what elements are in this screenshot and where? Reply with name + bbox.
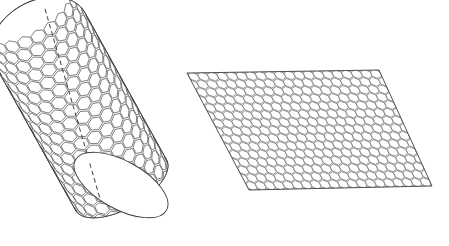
figure-canvas: Carbon nanotube and unrolled graphene sh… bbox=[0, 0, 449, 246]
